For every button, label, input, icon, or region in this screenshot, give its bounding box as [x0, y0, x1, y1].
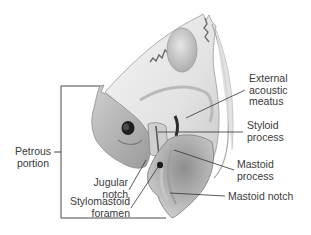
temporal-bone-figure: External acoustic meatus Styloid process…: [0, 0, 311, 235]
label-mastoid-notch: Mastoid notch: [228, 191, 293, 203]
label-external-acoustic-meatus: External acoustic meatus: [249, 73, 288, 108]
label-text: process: [247, 132, 284, 144]
label-text: Mastoid: [237, 159, 274, 171]
label-text: foramen: [66, 208, 130, 220]
label-text: Styloid: [247, 120, 284, 132]
label-text: process: [237, 171, 274, 183]
label-mastoid-process: Mastoid process: [237, 159, 274, 182]
label-text: Petrous: [13, 146, 53, 158]
label-stylomastoid-foramen: Stylomastoid foramen: [66, 196, 130, 219]
label-text: Stylomastoid: [66, 196, 130, 208]
label-styloid-process: Styloid process: [247, 120, 284, 143]
label-text: Mastoid notch: [228, 191, 293, 203]
label-text: meatus: [249, 96, 288, 108]
label-text: External: [249, 73, 288, 85]
label-text: portion: [13, 158, 53, 170]
label-petrous-portion: Petrous portion: [13, 146, 53, 169]
label-text: Jugular: [90, 177, 128, 189]
